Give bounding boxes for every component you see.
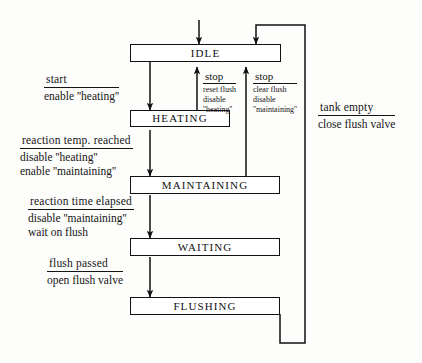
transition-tank-empty-action-0: close flush valve [318, 117, 395, 131]
transition-flush-passed-actions: open flush valve [47, 272, 123, 287]
transition-tank-empty-actions: close flush valve [318, 116, 395, 131]
transition-label-start: start enable ''heating'' [44, 72, 119, 103]
state-waiting-label: WAITING [178, 242, 233, 253]
state-diagram: IDLE HEATING MAINTAINING WAITING FLUSHIN… [0, 0, 422, 363]
transition-temp-reached-action-1: enable ''maintaining'' [20, 164, 133, 178]
state-waiting[interactable]: WAITING [130, 238, 280, 256]
transition-stop-maintaining-action-1: disable [253, 95, 297, 105]
transition-temp-reached-action-0: disable ''heating'' [20, 150, 133, 164]
state-maintaining[interactable]: MAINTAINING [130, 176, 280, 194]
transition-start-actions: enable ''heating'' [44, 88, 119, 103]
transition-stop-maintaining-trigger: stop [253, 70, 297, 84]
transition-start-action-0: enable ''heating'' [44, 89, 119, 103]
state-flushing-label: FLUSHING [173, 301, 236, 312]
transition-tank-empty-trigger: tank empty [318, 100, 395, 116]
transition-temp-reached-actions: disable ''heating'' enable ''maintaining… [20, 149, 133, 178]
transition-label-time-elapsed: reaction time elapsed disable ''maintain… [28, 194, 134, 239]
state-idle-label: IDLE [191, 48, 220, 59]
transition-temp-reached-trigger: reaction temp. reached [20, 133, 133, 149]
transition-label-stop-maintaining: stop clear flush disable ''maintaining'' [253, 70, 297, 115]
transition-stop-heating-action-2: ''heating'' [203, 105, 236, 115]
transition-stop-heating-actions: reset flush disable ''heating'' [203, 84, 236, 115]
state-maintaining-label: MAINTAINING [162, 180, 248, 191]
transition-label-temp-reached: reaction temp. reached disable ''heating… [20, 133, 133, 178]
transition-start-trigger: start [44, 72, 119, 88]
transition-stop-heating-action-1: disable [203, 95, 236, 105]
transition-label-flush-passed: flush passed open flush valve [47, 256, 123, 287]
transition-stop-heating-trigger: stop [203, 70, 236, 84]
state-heating-label: HEATING [152, 113, 207, 124]
transition-stop-heating-action-0: reset flush [203, 85, 236, 95]
transition-time-elapsed-action-0: disable ''maintaining'' [28, 211, 134, 225]
state-flushing[interactable]: FLUSHING [130, 297, 280, 315]
transition-time-elapsed-actions: disable ''maintaining'' wait on flush [28, 210, 134, 239]
state-idle[interactable]: IDLE [130, 44, 281, 62]
transition-stop-maintaining-action-0: clear flush [253, 85, 297, 95]
transition-label-tank-empty: tank empty close flush valve [318, 100, 395, 131]
transition-flush-passed-trigger: flush passed [47, 256, 123, 272]
transition-stop-maintaining-actions: clear flush disable ''maintaining'' [253, 84, 297, 115]
transition-time-elapsed-trigger: reaction time elapsed [28, 194, 134, 210]
transition-stop-maintaining-action-2: ''maintaining'' [253, 105, 297, 115]
transition-time-elapsed-action-1: wait on flush [28, 225, 134, 239]
transition-label-stop-heating: stop reset flush disable ''heating'' [203, 70, 236, 115]
transition-flush-passed-action-0: open flush valve [47, 273, 123, 287]
